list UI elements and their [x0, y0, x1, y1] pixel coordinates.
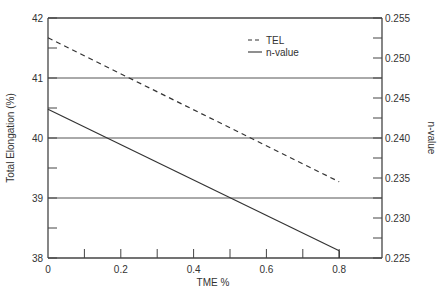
y-tick-label: 40 — [32, 133, 44, 144]
series-tel — [48, 38, 339, 182]
y-tick-label: 38 — [32, 253, 44, 264]
y2-tick-label: 0.230 — [385, 213, 410, 224]
y2-tick-label: 0.225 — [385, 253, 410, 264]
chart: 383940414200.20.40.60.80.2250.2300.2350.… — [0, 0, 443, 297]
y-tick-label: 42 — [32, 13, 44, 24]
x-tick-label: 0.6 — [259, 264, 273, 275]
ticks: 383940414200.20.40.60.80.2250.2300.2350.… — [32, 13, 411, 275]
series-n-value — [48, 109, 339, 251]
x-tick-label: 0.8 — [332, 264, 346, 275]
y2-tick-label: 0.235 — [385, 173, 410, 184]
y-axis-label: Total Elongation (%) — [5, 93, 16, 183]
x-tick-label: 0 — [45, 264, 51, 275]
x-axis-label: TME % — [197, 277, 230, 288]
y2-tick-label: 0.250 — [385, 53, 410, 64]
y2-tick-label: 0.245 — [385, 93, 410, 104]
gridlines — [48, 78, 382, 198]
y2-tick-label: 0.255 — [385, 13, 410, 24]
y-tick-label: 39 — [32, 193, 44, 204]
y2-axis-label: n-value — [426, 122, 437, 155]
y-tick-label: 41 — [32, 73, 44, 84]
legend-label: n-value — [266, 47, 299, 58]
x-tick-label: 0.4 — [187, 264, 201, 275]
series-lines — [48, 38, 339, 258]
legend: TELn-value — [248, 35, 299, 58]
legend-label: TEL — [266, 35, 285, 46]
y2-tick-label: 0.240 — [385, 133, 410, 144]
x-tick-label: 0.2 — [114, 264, 128, 275]
